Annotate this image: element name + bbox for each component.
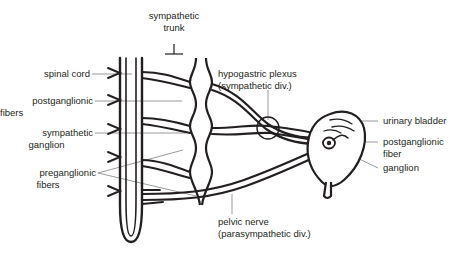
label-sympathetic-trunk-line1: sympathetic [128, 10, 220, 22]
preganglionic-fibers [142, 72, 190, 178]
label-hypogastric-plexus-line2: (sympathetic div.) [218, 80, 338, 92]
urethra [324, 182, 331, 198]
label-sympathetic-trunk: sympathetic trunk [128, 10, 220, 34]
label-ganglion: ganglion [383, 162, 468, 174]
label-preganglionic-fibers-line2: fibers [0, 179, 96, 191]
urinary-bladder [308, 112, 365, 198]
label-postganglionic-fiber-line2: fiber [383, 148, 468, 160]
label-sympathetic-ganglion: sympathetic ganglion [0, 127, 93, 151]
label-postganglionic-fiber-line1: postganglionic [383, 136, 468, 148]
label-pelvic-nerve-line2: (parasympathetic div.) [218, 228, 368, 240]
sympathetic-trunk-pointer [165, 44, 183, 54]
label-postganglionic-fiber: postganglionic fiber [383, 136, 468, 160]
label-urinary-bladder: urinary bladder [383, 115, 468, 127]
label-hypogastric-plexus: hypogastric plexus (sympathetic div.) [218, 68, 338, 92]
label-hypogastric-plexus-line1: hypogastric plexus [218, 68, 338, 80]
sympathetic-trunk [190, 58, 212, 205]
label-spinal-cord: spinal cord [0, 68, 90, 80]
label-preganglionic-fibers: preganglionic fibers [0, 167, 96, 191]
label-sympathetic-ganglion-line2: ganglion [0, 139, 93, 151]
label-preganglionic-fibers-line1: preganglionic [0, 167, 96, 179]
label-pelvic-nerve-line1: pelvic nerve [218, 216, 368, 228]
sacral-roots [142, 190, 163, 204]
spinal-cord [120, 58, 142, 242]
label-postganglionic-fibers-line1: postganglionic [0, 95, 93, 107]
label-postganglionic-fibers: postganglionic fibers [0, 95, 93, 119]
label-postganglionic-fibers-line2: fibers [0, 107, 93, 119]
label-sympathetic-trunk-line2: trunk [128, 22, 220, 34]
label-sympathetic-ganglion-line1: sympathetic [0, 127, 93, 139]
figure-canvas: sympathetic trunk spinal cord postgangli… [0, 0, 468, 257]
label-pelvic-nerve: pelvic nerve (parasympathetic div.) [218, 216, 368, 240]
